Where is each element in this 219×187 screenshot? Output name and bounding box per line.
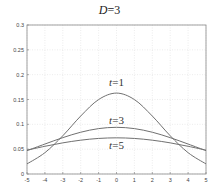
series-label-t-5: t=5: [109, 139, 124, 151]
series-label-t-3: t=3: [109, 114, 124, 126]
x-tick-label: 5: [204, 177, 207, 183]
x-tick-label: -4: [42, 177, 47, 183]
x-tick-label: 3: [169, 177, 172, 183]
plot-frame: [27, 25, 206, 174]
y-tick-label: 0.25: [13, 47, 24, 53]
series-label-value: =1: [112, 76, 124, 88]
x-tick-label: -5: [25, 177, 30, 183]
x-tick-label: -2: [78, 177, 83, 183]
x-tick-label: 4: [187, 177, 190, 183]
x-tick-label: -1: [96, 177, 101, 183]
y-tick-label: 0.2: [16, 72, 24, 78]
x-tick-label: -3: [60, 177, 65, 183]
series-label-t-1: t=1: [109, 76, 124, 88]
line-chart: -5-4-3-2-101234500.050.10.150.20.250.3: [0, 0, 219, 187]
y-tick-label: 0.1: [16, 121, 24, 127]
x-tick-label: 0: [115, 177, 118, 183]
y-tick-label: 0.3: [16, 22, 24, 28]
y-tick-label: 0: [21, 171, 24, 177]
x-tick-label: 1: [133, 177, 136, 183]
x-tick-label: 2: [151, 177, 154, 183]
series-label-value: =5: [112, 139, 124, 151]
series-label-value: =3: [112, 114, 124, 126]
y-tick-label: 0.05: [13, 146, 24, 152]
y-tick-label: 0.15: [13, 97, 24, 103]
